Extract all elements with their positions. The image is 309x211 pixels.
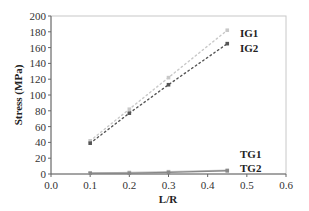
data-point-marker: [128, 111, 132, 115]
x-axis-ticks: 0.00.10.20.30.40.50.6: [44, 174, 293, 191]
x-tick-label: 0.1: [83, 179, 97, 191]
stress-vs-lr-chart: 020406080100120140160180200 0.00.10.20.3…: [0, 0, 309, 211]
y-tick-label: 180: [30, 26, 47, 38]
series-label-tg1: TG1: [240, 148, 261, 160]
data-point-marker: [225, 169, 229, 173]
x-axis-title: L/R: [159, 193, 178, 205]
series-label-ig2: IG2: [240, 42, 259, 54]
y-tick-label: 40: [35, 136, 47, 148]
x-tick-label: 0.0: [44, 179, 58, 191]
x-tick-label: 0.6: [279, 179, 293, 191]
y-tick-label: 140: [30, 57, 47, 69]
series-line-ig1: [90, 30, 227, 141]
series-label-ig1: IG1: [240, 27, 258, 39]
y-tick-label: 160: [30, 42, 47, 54]
y-tick-label: 200: [30, 10, 47, 22]
y-tick-label: 60: [35, 121, 47, 133]
data-point-marker: [167, 76, 171, 80]
data-point-marker: [225, 28, 229, 32]
y-axis-title: Stress (MPa): [12, 64, 25, 125]
data-point-marker: [167, 171, 171, 175]
data-point-marker: [167, 83, 171, 87]
y-tick-label: 100: [30, 89, 47, 101]
data-series: [88, 28, 229, 175]
x-tick-label: 0.2: [122, 179, 136, 191]
series-line-ig2: [90, 44, 227, 144]
series-labels: IG1IG2TG1TG2: [240, 27, 262, 174]
x-tick-label: 0.5: [240, 179, 254, 191]
y-tick-label: 20: [35, 152, 47, 164]
data-point-marker: [88, 141, 92, 145]
series-label-tg2: TG2: [240, 162, 262, 174]
x-tick-label: 0.3: [162, 179, 176, 191]
data-point-marker: [128, 107, 132, 111]
y-tick-label: 120: [30, 73, 47, 85]
data-point-marker: [88, 171, 92, 175]
data-point-marker: [225, 42, 229, 46]
y-axis-ticks: 020406080100120140160180200: [30, 10, 52, 180]
data-point-marker: [128, 171, 132, 175]
x-tick-label: 0.4: [201, 179, 215, 191]
y-tick-label: 80: [35, 105, 47, 117]
